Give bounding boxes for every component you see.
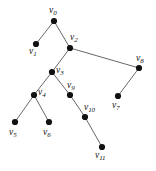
graph-edge-v4-v5 <box>15 95 34 122</box>
label-subscript-v6: 6 <box>47 131 50 139</box>
graph-node-v10 <box>82 114 88 120</box>
graph-edge-v2-v8 <box>70 48 139 68</box>
graph-node-label-v10: v10 <box>84 103 95 113</box>
label-subscript-v3: 3 <box>60 69 63 77</box>
graph-node-v7 <box>115 93 121 99</box>
label-subscript-v9: 9 <box>71 84 74 92</box>
label-subscript-v4: 4 <box>42 91 45 99</box>
graph-canvas <box>0 0 156 171</box>
graph-node-v3 <box>49 69 55 75</box>
graph-node-label-v5: v5 <box>9 128 17 138</box>
graph-node-label-v8: v8 <box>136 54 144 64</box>
graph-node-v8 <box>136 65 142 71</box>
graph-node-v5 <box>12 119 18 125</box>
graph-edge-v4-v6 <box>34 95 49 122</box>
label-subscript-v8: 8 <box>140 57 143 65</box>
graph-node-label-v3: v3 <box>56 66 64 76</box>
graph-node-v0 <box>51 18 57 24</box>
graph-edge-v9-v10 <box>70 95 85 117</box>
graph-edge-v0-v2 <box>54 21 70 48</box>
graph-node-label-v6: v6 <box>43 128 51 138</box>
graph-node-v11 <box>99 144 105 150</box>
graph-edge-v0-v1 <box>36 21 54 44</box>
graph-node-v4 <box>31 92 37 98</box>
graph-node-label-v1: v1 <box>29 47 37 57</box>
graph-node-label-v4: v4 <box>38 88 46 98</box>
graph-node-label-v2: v2 <box>70 33 78 43</box>
graph-node-v6 <box>46 119 52 125</box>
label-subscript-v1: 1 <box>33 50 36 58</box>
label-subscript-v2: 2 <box>74 36 77 44</box>
graph-node-label-v11: v11 <box>95 151 106 161</box>
graph-node-v9 <box>67 92 73 98</box>
graph-edge-v8-v7 <box>118 68 139 96</box>
graph-edge-v10-v11 <box>85 117 102 147</box>
graph-node-v2 <box>67 45 73 51</box>
label-subscript-v11: 11 <box>99 154 105 162</box>
label-subscript-v0: 0 <box>53 9 56 17</box>
label-subscript-v5: 5 <box>13 131 16 139</box>
graph-node-label-v9: v9 <box>67 81 75 91</box>
label-subscript-v7: 7 <box>116 104 119 112</box>
tree-diagram-figure: v0v1v2v3v4v5v6v7v8v9v10v11 <box>0 0 156 171</box>
label-subscript-v10: 10 <box>88 106 95 114</box>
graph-node-label-v0: v0 <box>49 6 57 16</box>
graph-node-label-v7: v7 <box>112 101 120 111</box>
